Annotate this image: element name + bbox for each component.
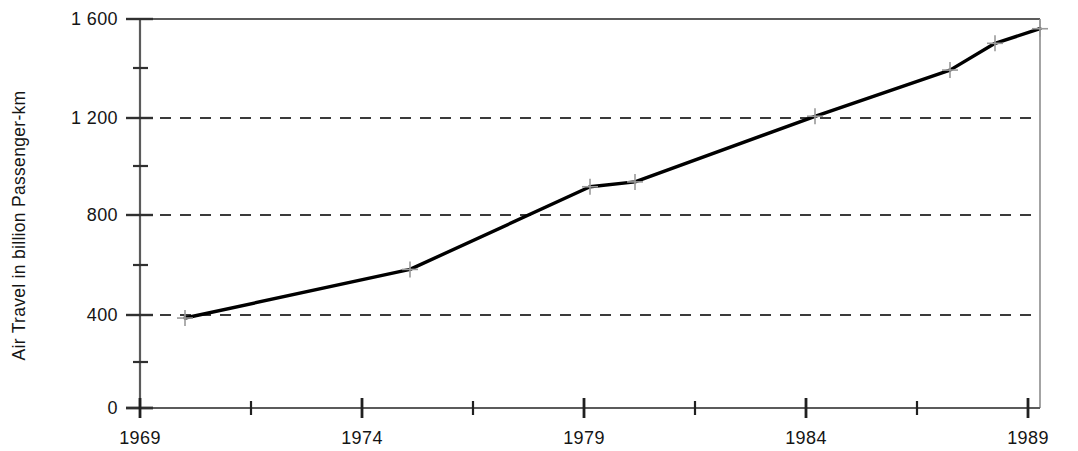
data-point-marker [582,179,598,195]
x-tick-label-1989: 1989 [1007,428,1049,449]
data-point-marker [987,35,1003,51]
series-line-air-travel [185,29,1040,318]
y-tick-label-1200: 1 200 [52,108,118,129]
y-tick-label-1600: 1 600 [52,9,118,30]
y-tick-label-800: 800 [52,205,118,226]
y-tick-label-0: 0 [52,398,118,419]
x-tick-label-1974: 1974 [341,428,383,449]
x-tick-label-1969: 1969 [119,428,161,449]
plot-frame [140,19,1040,408]
data-series-air-travel [177,21,1048,326]
x-tick-label-1984: 1984 [785,428,827,449]
data-point-marker [807,108,823,124]
data-point-marker [627,174,643,190]
data-point-marker [402,261,418,277]
line-chart-canvas [0,0,1078,451]
series-markers [177,21,1048,326]
data-point-marker [177,310,193,326]
data-point-marker [942,62,958,78]
gridlines [140,118,1040,315]
y-tick-label-400: 400 [52,305,118,326]
data-point-marker [1032,21,1048,37]
x-tick-label-1979: 1979 [563,428,605,449]
chart-figure: Air Travel in billion Passenger-km 1 600… [0,0,1078,451]
